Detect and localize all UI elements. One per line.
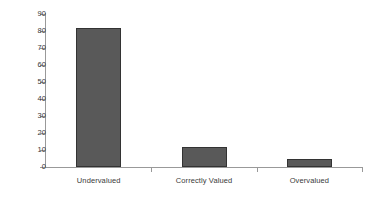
x-axis-line: [45, 167, 363, 168]
bar: [182, 147, 227, 167]
y-axis-tick-label: 90: [8, 10, 46, 18]
y-axis-tick-label: 70: [8, 44, 46, 52]
y-axis: 9080706050403020100: [0, 0, 46, 198]
bar: [76, 28, 121, 167]
x-axis-category-label: Undervalued: [46, 176, 151, 185]
y-axis-tick-label: 10: [8, 146, 46, 154]
y-axis-tick-label: 0: [8, 163, 46, 171]
plot-area: [46, 14, 362, 167]
x-axis-category-label: Overvalued: [257, 176, 362, 185]
y-axis-tick-label: 50: [8, 78, 46, 86]
bar: [287, 159, 332, 168]
x-axis-tick: [257, 168, 258, 172]
y-axis-tick-label: 60: [8, 61, 46, 69]
y-axis-tick-label: 30: [8, 112, 46, 120]
x-axis-tick: [151, 168, 152, 172]
x-axis-category-label: Correctly Valued: [151, 176, 256, 185]
y-axis-tick-label: 40: [8, 95, 46, 103]
x-axis-tick: [362, 168, 363, 172]
y-axis-tick-label: 80: [8, 27, 46, 35]
y-axis-tick-label: 20: [8, 129, 46, 137]
bar-chart: 9080706050403020100 UndervaluedCorrectly…: [0, 0, 381, 198]
